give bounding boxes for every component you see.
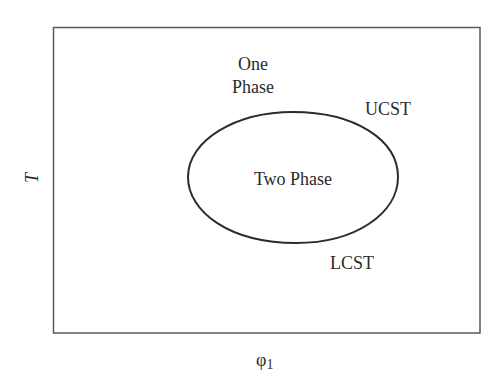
y-axis-label: T	[22, 171, 42, 183]
x-axis-label-base: φ	[256, 350, 266, 370]
two-phase-label: Two Phase	[254, 169, 332, 189]
x-axis-label: φ1	[256, 350, 273, 372]
one-phase-label-line1: One	[238, 54, 268, 74]
one-phase-label-line2: Phase	[232, 77, 274, 97]
ucst-label: UCST	[365, 99, 411, 119]
phase-diagram: One Phase Two Phase UCST LCST T φ1	[0, 0, 499, 389]
lcst-label: LCST	[330, 253, 374, 273]
x-axis-label-subscript: 1	[266, 357, 273, 372]
